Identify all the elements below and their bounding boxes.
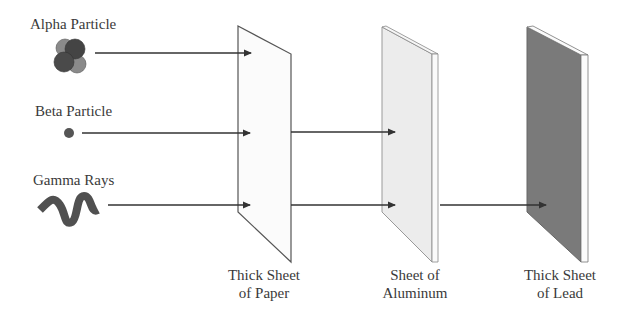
aluminum-label-line1: Sheet of (360, 266, 470, 284)
beta-particle-icon (64, 128, 74, 138)
aluminum-label-line2: Aluminum (360, 284, 470, 302)
paper-label-line2: of Paper (209, 284, 319, 302)
paper-sheet-label: Thick Sheet of Paper (209, 266, 319, 302)
alpha-particle-icon (54, 39, 86, 73)
lead-sheet (527, 26, 588, 262)
lead-label-line2: of Lead (505, 284, 615, 302)
beta-particle-label: Beta Particle (35, 102, 112, 120)
aluminum-sheet (382, 26, 438, 262)
lead-label-line1: Thick Sheet (505, 266, 615, 284)
gamma-wave-icon (40, 196, 98, 223)
aluminum-sheet-label: Sheet of Aluminum (360, 266, 470, 302)
alpha-particle-label: Alpha Particle (30, 15, 116, 33)
lead-sheet-label: Thick Sheet of Lead (505, 266, 615, 302)
paper-sheet (238, 26, 291, 262)
gamma-rays-label: Gamma Rays (33, 171, 114, 189)
paper-label-line1: Thick Sheet (209, 266, 319, 284)
radiation-diagram: Alpha Particle Beta Particle Gamma Rays … (0, 0, 629, 312)
